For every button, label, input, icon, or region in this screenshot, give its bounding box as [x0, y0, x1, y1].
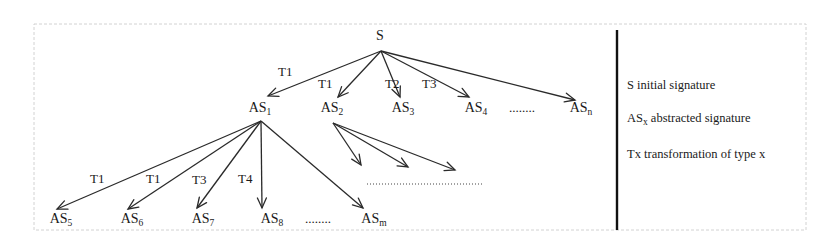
legend: S initial signatureASx abstracted signat… [627, 78, 766, 161]
legend-item-2: ASx abstracted signature [627, 111, 751, 127]
level1-ellipsis: ........ [509, 100, 535, 115]
node-asn: ASn [570, 100, 593, 117]
edge-line [261, 121, 262, 208]
nodes: SAS1T1AS2T1AS3T2AS4T3ASn........AS5T1AS6… [50, 28, 593, 228]
diagram-frame [34, 24, 806, 230]
edge-as2-child-1 [333, 123, 361, 165]
edge-as2-child-2 [333, 123, 408, 167]
edge-label-t1: T1 [278, 64, 292, 79]
node-asm: ASm [361, 211, 387, 228]
legend-item-1: S initial signature [627, 78, 716, 92]
edge-as2-child-3 [333, 123, 455, 171]
edge-as1-to-as8 [257, 121, 266, 208]
edge-label-t4: T4 [238, 171, 253, 186]
legend-item-3: Tx transformation of type x [627, 147, 766, 161]
node-as6: AS6 [121, 211, 144, 228]
edges [57, 51, 575, 209]
edge-line [338, 51, 381, 97]
edge-label-t1: T1 [318, 76, 332, 91]
edge-label-t2: T2 [385, 76, 399, 91]
edge-line [261, 121, 363, 208]
node-as8: AS8 [261, 211, 284, 228]
edge-line [333, 123, 408, 167]
edge-s-to-as2 [338, 51, 381, 97]
edge-s-to-asn [381, 51, 575, 102]
edge-line [128, 121, 261, 209]
edge-line [57, 121, 261, 209]
node-as5: AS5 [50, 211, 73, 228]
edge-label-t1: T1 [90, 171, 104, 186]
arrowhead-icon [352, 154, 361, 165]
node-as1: AS1 [249, 100, 272, 117]
node-as4: AS4 [465, 100, 488, 117]
node-as3: AS3 [392, 100, 415, 117]
edge-as1-to-asm [261, 121, 363, 208]
edge-as1-to-as7 [197, 121, 261, 208]
edge-line [381, 51, 575, 100]
signature-tree-diagram: SAS1T1AS2T1AS3T2AS4T3ASn........AS5T1AS6… [0, 0, 837, 246]
arrowhead-icon [397, 158, 408, 167]
edge-label-t3: T3 [192, 172, 206, 187]
level2-ellipsis: ........ [305, 211, 331, 226]
edge-as1-to-as6 [128, 121, 261, 209]
edge-label-t3: T3 [422, 76, 436, 91]
edge-label-t1: T1 [146, 171, 160, 186]
arrowhead-icon [128, 200, 139, 209]
edge-line [197, 121, 261, 208]
edge-as1-to-as5 [57, 121, 261, 209]
node-as7: AS7 [192, 211, 215, 228]
node-as2: AS2 [321, 100, 344, 117]
edge-line [333, 123, 361, 165]
edge-line [333, 123, 455, 170]
node-s: S [376, 28, 384, 43]
